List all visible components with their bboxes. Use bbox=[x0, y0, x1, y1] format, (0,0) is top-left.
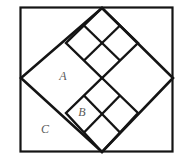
region-label-b: B bbox=[78, 105, 86, 119]
geometry-figure: A B C bbox=[0, 0, 190, 167]
figure-canvas: A B C bbox=[0, 0, 190, 167]
region-label-c: C bbox=[41, 122, 50, 136]
region-label-a: A bbox=[58, 69, 67, 83]
